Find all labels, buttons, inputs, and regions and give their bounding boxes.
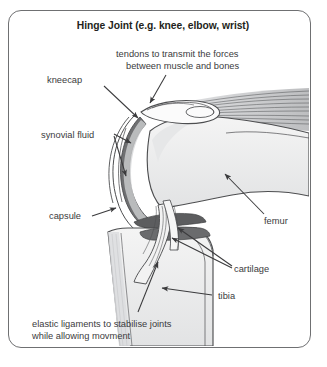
tendons-label-line2: between muscle and bones [126, 61, 240, 71]
femur-label: femur [264, 216, 288, 226]
femur-bone [147, 117, 309, 208]
annotation-synovial-fluid: synovial fluid [41, 130, 131, 176]
ligaments-label-line1: elastic ligaments to stabilise joints [32, 319, 172, 329]
synovial-fluid-label: synovial fluid [41, 130, 94, 140]
kneecap-label: kneecap [47, 75, 82, 85]
ligaments-label-line2: while allowing movment [31, 331, 131, 341]
kneecap-leader [104, 86, 138, 118]
tibia-label: tibia [218, 291, 236, 301]
capsule-label: capsule [49, 211, 81, 221]
page-title: Hinge Joint (e.g. knee, elbow, wrist) [77, 20, 249, 31]
kneecap-patella [141, 100, 220, 123]
annotation-capsule: capsule [49, 208, 116, 221]
cartilage-label: cartilage [234, 264, 269, 274]
capsule-leader [92, 208, 116, 216]
annotation-kneecap: kneecap [47, 75, 138, 118]
tendons-leader [150, 75, 166, 103]
tendons-label-line1: tendons to transmit the forces [116, 49, 239, 59]
hinge-joint-diagram: Hinge Joint (e.g. knee, elbow, wrist) [0, 0, 327, 367]
annotation-tendons: tendons to transmit the forces between m… [116, 49, 240, 103]
